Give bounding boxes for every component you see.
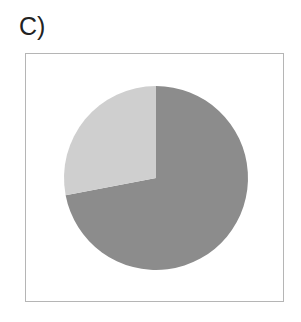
pie-slices <box>64 86 248 270</box>
pie-chart <box>0 0 301 322</box>
pie-slice-2 <box>64 86 156 195</box>
